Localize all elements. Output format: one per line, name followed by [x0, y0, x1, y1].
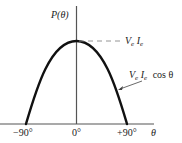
curve-label-leader	[120, 81, 142, 89]
x-tick-pos90: +90°	[117, 128, 137, 138]
power-vs-angle-diagram: P(θ) Ve Ie Ve Ie cos θ −90° 0° +90° θ	[0, 0, 182, 143]
curve-label-v-sub: e	[135, 74, 138, 82]
curve-label-i-sub: e	[144, 74, 147, 82]
arrowhead-icon	[118, 86, 123, 90]
curve-label-func: cos θ	[153, 69, 174, 80]
peak-label-v-sub: e	[131, 40, 134, 48]
x-tick-0: 0°	[72, 128, 81, 138]
x-tick-neg90: −90°	[13, 128, 33, 138]
x-axis-label: θ	[151, 128, 156, 138]
peak-label: Ve Ie	[125, 36, 143, 48]
y-axis-label: P(θ)	[51, 10, 69, 20]
curve-label: Ve Ie cos θ	[129, 70, 173, 82]
peak-label-i-sub: e	[140, 40, 143, 48]
